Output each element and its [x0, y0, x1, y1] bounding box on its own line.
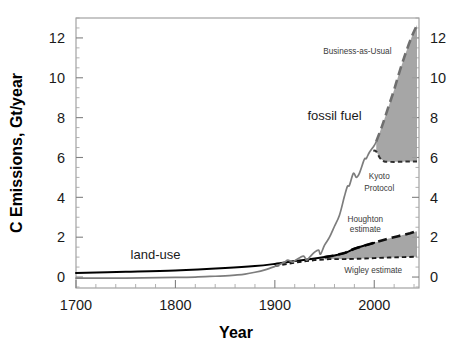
y-tick-label-right: 4 [430, 190, 438, 206]
x-axis-title: Year [219, 324, 253, 341]
y-tick-label-left: 8 [57, 110, 65, 126]
y-tick-label-right: 12 [430, 30, 446, 46]
y-tick-label-left: 0 [57, 269, 65, 285]
annotation-kyoto-protocol-line2: Protocol [364, 184, 394, 193]
annotation-houghton-estimate-line2: estimate [350, 225, 381, 234]
y-tick-label-left: 10 [49, 70, 65, 86]
annotation-wigley-estimate: Wigley estimate [344, 266, 402, 275]
x-axis-labels: 1700180019002000 [60, 297, 391, 313]
x-tick-label: 1800 [159, 297, 191, 313]
x-tick-label: 2000 [358, 297, 390, 313]
annotation-business-as-usual: Business-as-Usual [323, 47, 391, 56]
emissions-chart: 024681012 024681012 1700180019002000 fos… [0, 0, 474, 355]
annotation-land-use: land-use [131, 247, 181, 262]
y-tick-label-right: 6 [430, 150, 438, 166]
y-tick-label-right: 10 [430, 70, 446, 86]
x-tick-label: 1900 [259, 297, 291, 313]
annotation-houghton-estimate-line1: Houghton [348, 215, 384, 224]
y-tick-label-left: 6 [57, 150, 65, 166]
y-axis-left-labels: 024681012 [49, 30, 65, 285]
y-tick-label-right: 8 [430, 110, 438, 126]
y-tick-label-right: 2 [430, 229, 438, 245]
y-tick-label-left: 12 [49, 30, 65, 46]
annotation-kyoto-protocol-line1: Kyoto [369, 172, 390, 181]
y-axis-title: C Emissions, Gt/year [8, 73, 25, 233]
x-tick-label: 1700 [60, 297, 92, 313]
y-tick-label-right: 0 [430, 269, 438, 285]
y-tick-label-left: 2 [57, 229, 65, 245]
y-axis-right-labels: 024681012 [430, 30, 446, 285]
annotation-fossil-fuel: fossil fuel [307, 108, 361, 123]
y-tick-label-left: 4 [57, 190, 65, 206]
chart-page: 024681012 024681012 1700180019002000 fos… [0, 0, 474, 355]
